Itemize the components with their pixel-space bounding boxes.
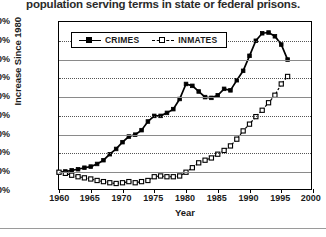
data-point-inmates bbox=[235, 137, 239, 141]
x-tick-label: 1995 bbox=[270, 193, 290, 203]
data-point-inmates bbox=[222, 148, 226, 152]
data-point-inmates bbox=[165, 175, 169, 179]
x-tick-label: 1975 bbox=[143, 193, 163, 203]
data-point-inmates bbox=[120, 181, 124, 185]
chart-figure: population serving terms in state or fed… bbox=[0, 0, 326, 237]
data-point-crimes bbox=[89, 165, 93, 169]
series-line-inmates bbox=[59, 76, 288, 183]
y-tick-label: 300% bbox=[0, 59, 10, 69]
gridline bbox=[59, 78, 311, 79]
legend-item-inmates: INMATES bbox=[152, 35, 217, 45]
data-point-crimes bbox=[114, 147, 118, 151]
data-point-crimes bbox=[76, 167, 80, 171]
open-square-marker-icon bbox=[152, 36, 174, 45]
y-tick-label: -50% bbox=[0, 190, 10, 200]
y-axis-title: Increase Since 1980 bbox=[12, 26, 23, 106]
data-point-crimes bbox=[95, 162, 99, 166]
x-tick-label: 1970 bbox=[111, 193, 131, 203]
data-point-crimes bbox=[248, 54, 252, 58]
data-point-inmates bbox=[114, 181, 118, 185]
series-line-crimes bbox=[59, 33, 288, 173]
legend-item-crimes: CRIMES bbox=[79, 35, 139, 45]
figure-caption: population serving terms in state or fed… bbox=[0, 0, 326, 11]
data-point-inmates bbox=[241, 129, 245, 133]
data-point-crimes bbox=[273, 34, 277, 38]
y-tick-label: 400% bbox=[0, 21, 10, 31]
filled-square-marker-icon bbox=[79, 36, 101, 45]
data-point-inmates bbox=[76, 175, 80, 179]
y-tick-label: 0% bbox=[0, 171, 10, 181]
y-tick-label: 150% bbox=[0, 115, 10, 125]
data-point-inmates bbox=[178, 174, 182, 178]
data-point-crimes bbox=[267, 31, 271, 35]
data-point-inmates bbox=[203, 158, 207, 162]
data-point-inmates bbox=[260, 108, 264, 112]
gridline bbox=[59, 153, 311, 154]
data-point-inmates bbox=[197, 161, 201, 165]
data-point-inmates bbox=[171, 175, 175, 179]
x-axis-title: Year bbox=[58, 207, 312, 218]
data-point-inmates bbox=[190, 166, 194, 170]
chart-legend: CRIMES INMATES bbox=[71, 32, 227, 48]
y-tick-label: 50% bbox=[0, 152, 10, 162]
data-point-inmates bbox=[152, 175, 156, 179]
data-point-crimes bbox=[146, 120, 150, 124]
data-point-crimes bbox=[260, 31, 264, 35]
data-point-inmates bbox=[209, 156, 213, 160]
data-point-inmates bbox=[159, 174, 163, 178]
data-point-crimes bbox=[184, 82, 188, 86]
x-tick-label: 1985 bbox=[207, 193, 227, 203]
data-point-crimes bbox=[172, 107, 176, 111]
data-point-inmates bbox=[101, 180, 105, 184]
data-point-crimes bbox=[121, 140, 125, 144]
data-point-inmates bbox=[108, 181, 112, 185]
data-point-crimes bbox=[229, 89, 233, 93]
data-point-crimes bbox=[279, 43, 283, 47]
data-point-inmates bbox=[279, 82, 283, 86]
gridline bbox=[59, 172, 311, 173]
data-point-inmates bbox=[127, 180, 131, 184]
data-point-crimes bbox=[222, 87, 226, 91]
data-point-crimes bbox=[83, 166, 87, 170]
y-tick-label: 100% bbox=[0, 134, 10, 144]
y-tick-label: 200% bbox=[0, 96, 10, 106]
y-tick-label: 250% bbox=[0, 77, 10, 87]
data-point-inmates bbox=[70, 173, 74, 177]
data-point-crimes bbox=[191, 84, 195, 88]
x-tick-label: 1980 bbox=[175, 193, 195, 203]
x-tick-label: 1990 bbox=[238, 193, 258, 203]
data-point-inmates bbox=[82, 176, 86, 180]
gridline bbox=[59, 97, 311, 98]
x-tick-label: 2000 bbox=[301, 193, 321, 203]
data-point-crimes bbox=[241, 69, 245, 73]
data-point-crimes bbox=[140, 128, 144, 132]
data-point-crimes bbox=[165, 111, 169, 115]
legend-label-inmates: INMATES bbox=[178, 35, 217, 45]
y-tick-label: 350% bbox=[0, 40, 10, 50]
data-point-inmates bbox=[133, 181, 137, 185]
data-point-inmates bbox=[266, 101, 270, 105]
x-tick-label: 1960 bbox=[49, 193, 69, 203]
data-point-inmates bbox=[95, 178, 99, 182]
data-point-inmates bbox=[139, 180, 143, 184]
footer-rule bbox=[0, 228, 326, 229]
gridline bbox=[59, 60, 311, 61]
gridline bbox=[59, 116, 311, 117]
data-point-crimes bbox=[102, 158, 106, 162]
data-point-inmates bbox=[146, 178, 150, 182]
legend-label-crimes: CRIMES bbox=[105, 35, 139, 45]
data-point-inmates bbox=[89, 177, 93, 181]
data-point-inmates bbox=[228, 144, 232, 148]
data-point-inmates bbox=[247, 122, 251, 126]
data-point-crimes bbox=[197, 90, 201, 94]
gridline bbox=[59, 135, 311, 136]
x-tick-label: 1965 bbox=[80, 193, 100, 203]
